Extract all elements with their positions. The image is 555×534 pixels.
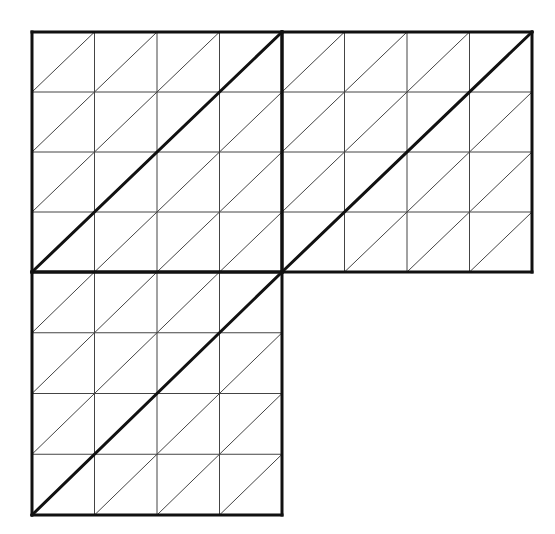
cell-diagonal [282,92,345,152]
cell-diagonal [282,152,345,212]
cell-diagonal [95,32,158,92]
cell-diagonal [470,92,533,152]
cell-diagonal [282,32,345,92]
cell-diagonal [32,333,95,394]
cell-diagonal [32,272,95,333]
cell-diagonal [157,152,220,212]
cell-diagonal [407,212,470,272]
cell-diagonal [220,333,283,394]
cell-diagonal [220,92,283,152]
cell-diagonal [157,32,220,92]
cell-diagonal [157,454,220,515]
cell-diagonal [95,212,158,272]
cell-diagonal [32,92,95,152]
cell-diagonal [95,454,158,515]
cell-diagonal [220,212,283,272]
cell-diagonal [32,32,95,92]
cell-diagonal [32,152,95,212]
cell-diagonal [220,394,283,455]
cell-diagonal [95,333,158,394]
cell-diagonal [157,394,220,455]
cell-diagonal [220,454,283,515]
cell-diagonal [157,212,220,272]
l-shaped-grid-diagram [0,0,555,534]
cell-diagonal [345,32,408,92]
cell-diagonal [95,272,158,333]
cell-diagonal [470,152,533,212]
cell-diagonal [95,92,158,152]
cell-diagonal [345,92,408,152]
cell-diagonal [407,152,470,212]
cell-diagonal [407,32,470,92]
cell-diagonal [157,272,220,333]
cell-diagonal [470,212,533,272]
cell-diagonal [220,152,283,212]
thick-outline-and-diagonals [32,32,532,515]
cell-diagonal [345,212,408,272]
cell-diagonal [32,394,95,455]
